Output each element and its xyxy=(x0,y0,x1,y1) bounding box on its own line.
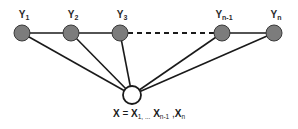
graph-diagram: Y1 Y2 Y3 Yn-1 Yn X = X1, ... Xn-1 ,Xn xyxy=(0,0,298,129)
x-to-y-edges xyxy=(22,33,274,95)
caption-lhs: X xyxy=(113,108,120,119)
node-y2[interactable] xyxy=(63,25,79,41)
node-label-y1-base: Y xyxy=(19,9,26,20)
caption-term-3-base: X xyxy=(175,108,182,119)
edge-x-to-yn xyxy=(132,33,274,95)
node-label-y1: Y1 xyxy=(19,9,30,20)
node-yn-1[interactable] xyxy=(214,25,230,41)
node-label-yn-1-sub: n-1 xyxy=(222,14,233,21)
caption-term-1-base: X xyxy=(131,108,138,119)
node-yn[interactable] xyxy=(266,25,282,41)
caption-term-1-sub: 1, ... xyxy=(138,113,151,120)
node-label-yn-sub: n xyxy=(277,14,281,21)
edge-x-to-y2 xyxy=(71,33,132,95)
x-node-caption: X = X1, ... Xn-1 ,Xn xyxy=(113,108,185,119)
node-label-y2-base: Y xyxy=(68,9,75,20)
edge-x-to-y1 xyxy=(22,33,132,95)
node-label-y2: Y2 xyxy=(68,9,79,20)
caption-term-2-base: X xyxy=(153,108,160,119)
node-y1[interactable] xyxy=(14,25,30,41)
node-y3[interactable] xyxy=(112,25,128,41)
node-label-y1-sub: 1 xyxy=(25,14,29,21)
node-label-yn-1-base: Y xyxy=(215,9,222,20)
node-label-yn-1: Yn-1 xyxy=(215,9,232,20)
node-label-y2-sub: 2 xyxy=(74,14,78,21)
node-label-y3: Y3 xyxy=(117,9,128,20)
node-x[interactable] xyxy=(123,86,141,104)
caption-term-3-sub: n xyxy=(181,113,185,120)
caption-term-2-sub: n-1 xyxy=(160,113,169,120)
edge-x-to-yn-1 xyxy=(132,33,222,95)
node-label-y3-sub: 3 xyxy=(123,14,127,21)
node-label-yn-base: Y xyxy=(271,9,278,20)
caption-equals: = xyxy=(120,108,131,119)
node-label-y3-base: Y xyxy=(117,9,124,20)
node-label-yn: Yn xyxy=(271,9,282,20)
